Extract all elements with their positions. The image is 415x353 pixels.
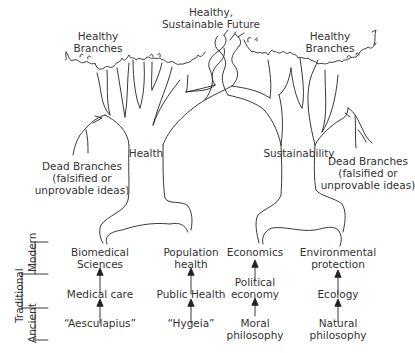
root-3-ancient: Moral philosophy: [226, 317, 283, 341]
label-line: Branches: [74, 42, 123, 54]
label-line: Natural: [309, 317, 366, 329]
future-label-line-1: Healthy,: [162, 6, 260, 18]
label-line: Dead Branches: [321, 155, 415, 167]
era-modern-label: Modern: [26, 233, 38, 272]
right-dead-branch: [348, 108, 372, 143]
intertwined-center: [186, 30, 281, 145]
era-ancient-label: Ancient: [26, 303, 38, 343]
label-line: (falsified or: [321, 167, 415, 179]
label-line: philosophy: [309, 329, 366, 341]
root-1-ancient: “Aesculapius”: [64, 317, 136, 329]
label-line: Healthy: [306, 30, 355, 42]
label-line: Branches: [306, 42, 355, 54]
root-2-modern: Population health: [163, 246, 218, 270]
label-line: Sciences: [71, 258, 129, 270]
label-line: unprovable ideas): [35, 184, 130, 196]
future-label: Healthy, Sustainable Future: [162, 6, 260, 30]
root-2-middle: Public Health: [157, 288, 226, 300]
label-line: philosophy: [226, 329, 283, 341]
root-2-ancient: “Hygeia”: [167, 317, 214, 329]
label-line: Moral: [226, 317, 283, 329]
root-3-modern: Economics: [227, 246, 283, 258]
root-4-middle: Ecology: [317, 288, 358, 300]
left-dead-branches-label: Dead Branches (falsified or unprovable i…: [35, 160, 130, 196]
label-line: unprovable ideas): [321, 179, 415, 191]
root-4-modern: Environmental protection: [300, 246, 376, 270]
label-line: Environmental: [300, 246, 376, 258]
era-traditional-label: Traditional: [13, 268, 25, 323]
future-label-line-2: Sustainable Future: [162, 18, 260, 30]
label-line: Political: [231, 276, 279, 288]
label-line: Population: [163, 246, 218, 258]
right-tree: [244, 30, 376, 246]
label-line: Biomedical: [71, 246, 129, 258]
root-1-modern: Biomedical Sciences: [71, 246, 129, 270]
label-line: protection: [300, 258, 376, 270]
label-line: Dead Branches: [35, 160, 130, 172]
root-4-ancient: Natural philosophy: [309, 317, 366, 341]
right-healthy-branches-label: Healthy Branches: [306, 30, 355, 54]
health-trunk-label: Health: [129, 147, 163, 159]
label-line: Healthy: [74, 30, 123, 42]
label-line: (falsified or: [35, 172, 130, 184]
right-dead-branches-label: Dead Branches (falsified or unprovable i…: [321, 155, 415, 191]
label-line: health: [163, 258, 218, 270]
left-healthy-branches-label: Healthy Branches: [74, 30, 123, 54]
left-dead-branch: [73, 115, 105, 155]
root-1-middle: Medical care: [67, 288, 133, 300]
label-line: economy: [231, 288, 279, 300]
root-3-middle: Political economy: [231, 276, 279, 300]
